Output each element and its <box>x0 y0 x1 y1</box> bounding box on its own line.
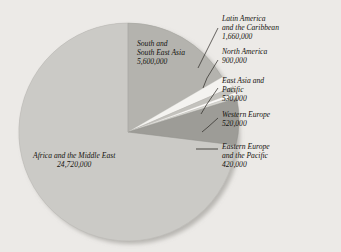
slice-label-western-europe: Western Europe 520,000 <box>222 110 270 128</box>
slice-label-line2: Pacific <box>222 85 264 94</box>
pie-chart-graphic <box>0 0 341 252</box>
slice-label-value: 1,660,000 <box>222 32 279 41</box>
slice-label-line1: Western Europe <box>222 110 270 119</box>
slice-label-line1: South and <box>137 39 185 48</box>
slice-label-eastern-europe-and-the-pacific: Eastern Europe and the Pacific 420,000 <box>222 142 270 170</box>
slice-label-line1: East Asia and <box>222 76 264 85</box>
slice-label-latin-america-and-the-caribbean: Latin America and the Caribbean 1,660,00… <box>222 14 279 42</box>
slice-label-value: 900,000 <box>222 56 267 65</box>
slice-label-value: 5,600,000 <box>137 57 185 66</box>
slice-label-east-asia-and-pacific: East Asia and Pacific 530,000 <box>222 76 264 104</box>
pie-chart-figure: REFUGEES BY REGION South and <box>0 0 341 252</box>
slice-label-line1: Africa and the Middle East <box>33 151 115 160</box>
slice-label-south-and-south-east-asia: South and South East Asia 5,600,000 <box>137 39 185 67</box>
slice-label-line1: Eastern Europe <box>222 142 270 151</box>
slice-label-value: 520,000 <box>222 119 270 128</box>
slice-label-value: 530,000 <box>222 94 264 103</box>
slice-label-line1: North America <box>222 47 267 56</box>
slice-label-line2: and the Pacific <box>222 151 270 160</box>
slice-label-line1: Latin America <box>222 14 279 23</box>
slice-label-line2: South East Asia <box>137 48 185 57</box>
slice-label-line2: and the Caribbean <box>222 23 279 32</box>
slice-label-value: 24,720,000 <box>33 160 115 169</box>
slice-label-africa-and-the-middle-east: Africa and the Middle East 24,720,000 <box>33 151 115 169</box>
slice-label-north-america: North America 900,000 <box>222 47 267 65</box>
slice-label-value: 420,000 <box>222 160 270 169</box>
